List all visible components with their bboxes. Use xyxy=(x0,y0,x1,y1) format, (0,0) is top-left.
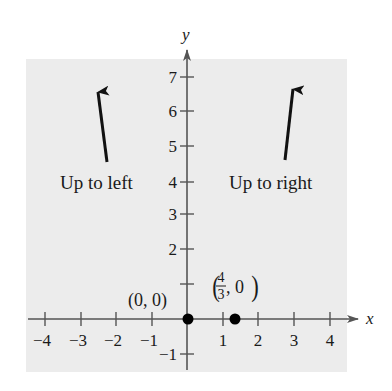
point-origin xyxy=(183,314,194,325)
point-four-thirds xyxy=(230,314,241,325)
svg-text:−1: −1 xyxy=(159,345,177,364)
svg-text:4: 4 xyxy=(218,270,225,285)
svg-text:7: 7 xyxy=(169,68,178,87)
svg-text:6: 6 xyxy=(169,102,178,121)
svg-text:3: 3 xyxy=(169,205,178,224)
svg-text:): ) xyxy=(251,269,258,303)
svg-text:−2: −2 xyxy=(104,331,122,350)
annotation-up-to-right: Up to right xyxy=(229,172,313,193)
svg-text:−4: −4 xyxy=(33,331,52,350)
svg-text:3: 3 xyxy=(290,331,299,350)
svg-text:4: 4 xyxy=(169,173,178,192)
svg-text:−3: −3 xyxy=(69,331,87,350)
svg-text:−1: −1 xyxy=(140,331,158,350)
svg-text:4: 4 xyxy=(326,331,335,350)
chart: x y −4 −3 −2 −1 1 2 3 4 −1 2 3 4 5 xyxy=(0,0,392,391)
y-axis-label: y xyxy=(180,25,190,44)
point-origin-label: (0, 0) xyxy=(128,290,167,311)
annotation-up-to-left: Up to left xyxy=(60,172,134,193)
svg-text:5: 5 xyxy=(169,137,178,156)
svg-text:2: 2 xyxy=(254,331,263,350)
svg-text:3: 3 xyxy=(218,287,225,302)
svg-text:2: 2 xyxy=(169,240,178,259)
x-axis-label: x xyxy=(365,309,374,328)
svg-text:, 0: , 0 xyxy=(226,277,244,297)
svg-text:1: 1 xyxy=(219,331,228,350)
